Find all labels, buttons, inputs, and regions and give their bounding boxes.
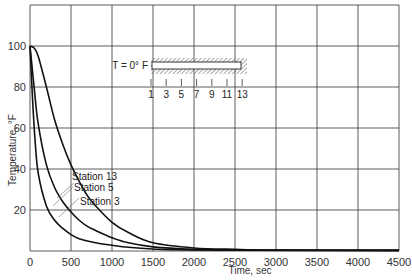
x-tick-label: 4500 xyxy=(387,256,411,268)
station-number: 3 xyxy=(163,89,169,100)
station-markers: 135791113 xyxy=(148,79,248,100)
x-tick-label: 4000 xyxy=(346,256,370,268)
curve-station-3 xyxy=(30,46,399,250)
series-label: Station 3 xyxy=(80,196,120,207)
grid xyxy=(30,5,399,251)
x-tick-label: 500 xyxy=(62,256,80,268)
x-tick-label: 3500 xyxy=(305,256,329,268)
boundary-temperature-label: T = 0° F xyxy=(112,60,148,71)
series-label: Station 13 xyxy=(72,171,117,182)
curve-station-5 xyxy=(30,46,399,250)
x-tick-label: 1500 xyxy=(141,256,165,268)
station-number: 11 xyxy=(222,89,233,100)
y-tick-label: 20 xyxy=(14,204,26,216)
leader-line xyxy=(57,183,74,198)
y-axis-label: Temperature, °F xyxy=(7,114,18,186)
bar-rod xyxy=(152,62,241,69)
x-tick-label: 2000 xyxy=(182,256,206,268)
x-axis-ticks: 050010001500200025003000350040004500 xyxy=(27,256,411,268)
curve-station-13 xyxy=(30,46,399,250)
x-axis-label: Time, sec xyxy=(229,265,272,276)
station-number: 5 xyxy=(179,89,185,100)
temperature-chart: 050010001500200025003000350040004500 204… xyxy=(0,0,412,280)
x-tick-label: 0 xyxy=(27,256,33,268)
station-number: 9 xyxy=(209,89,215,100)
station-number: 13 xyxy=(237,89,249,100)
bar-inset-diagram: T = 0° F 135791113 xyxy=(112,58,248,100)
station-number: 7 xyxy=(194,89,200,100)
y-tick-label: 100 xyxy=(8,40,26,52)
x-tick-label: 1000 xyxy=(100,256,124,268)
series-labels: Station 13Station 5Station 3 xyxy=(72,171,120,207)
curves xyxy=(30,46,399,250)
station-number: 1 xyxy=(148,89,154,100)
y-tick-label: 80 xyxy=(14,81,26,93)
series-label: Station 5 xyxy=(74,182,114,193)
